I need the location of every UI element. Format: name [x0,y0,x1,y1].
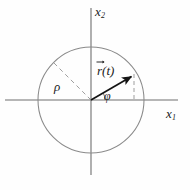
vector-symbol-wrapper: r [97,64,102,77]
vector-symbol-argument: (t) [102,63,114,78]
figure-canvas: x2 x1 ρ φ r (t) [0,0,190,190]
x1-axis-label-subscript: 1 [172,113,176,122]
x1-axis-label: x1 [166,107,176,120]
vector-arrow-overbar-icon [96,58,105,64]
phi-angle-label: φ [104,90,111,102]
diagram-svg [0,0,190,190]
vector-symbol-base: r [97,63,102,78]
position-vector-label: r (t) [97,64,114,77]
position-vector-arrow [91,77,132,101]
x2-axis-label: x2 [95,5,105,18]
rho-radius-label: ρ [54,80,60,93]
x2-axis-label-subscript: 2 [101,11,105,20]
x1-axis-label-base: x [166,106,172,121]
x2-axis-label-base: x [95,4,101,19]
